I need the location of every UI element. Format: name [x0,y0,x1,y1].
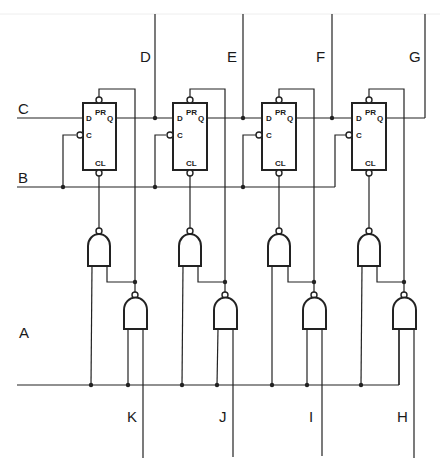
pin-c: C [356,131,362,140]
lower-nand-4 [393,292,416,329]
label-i: I [309,408,313,425]
pin-cl: CL [275,159,286,168]
upper-nand-2 [179,228,201,266]
label-k: K [127,408,137,425]
pin-d: D [356,114,362,123]
pin-c: C [86,131,92,140]
pin-q: Q [377,114,383,123]
flip-flop-2: PR D Q C CL [167,97,207,176]
pin-d: D [177,114,183,123]
shift-register-schematic: PR D Q C CL PR D Q C CL PR D Q C CL PR D… [0,0,440,475]
flip-flop-1: PR D Q C CL [77,97,116,176]
pin-pr: PR [95,108,106,117]
pin-pr: PR [186,108,197,117]
pin-pr: PR [275,108,286,117]
pin-cl: CL [186,159,197,168]
lower-nand-1 [124,292,147,329]
upper-nand-3 [268,228,290,266]
flip-flop-3: PR D Q C CL [256,97,296,176]
label-g: G [409,48,421,65]
lower-nand-2 [214,292,237,329]
pin-d: D [266,114,272,123]
upper-nand-1 [88,228,110,266]
flip-flop-4: PR D Q C CL [346,97,386,176]
pin-c: C [177,131,183,140]
label-h: H [397,408,408,425]
label-a: A [19,324,29,341]
pin-d: D [86,114,92,123]
label-j: J [219,408,227,425]
pin-q: Q [198,114,204,123]
pin-cl: CL [95,159,106,168]
label-c: C [18,100,29,117]
pin-q: Q [107,114,113,123]
pin-pr: PR [365,108,376,117]
pin-q: Q [287,114,293,123]
pin-c: C [266,131,272,140]
label-b: B [18,169,28,186]
lower-nand-3 [303,292,326,329]
label-f: F [316,48,325,65]
upper-nand-4 [358,228,380,266]
pin-cl: CL [365,159,376,168]
label-e: E [227,48,237,65]
label-d: D [140,48,151,65]
